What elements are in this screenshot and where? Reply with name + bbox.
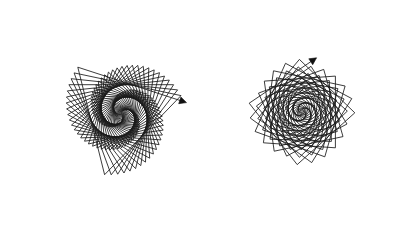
- turtle-cursor-icon: [179, 97, 187, 104]
- turtle-canvas: [0, 0, 401, 243]
- triangle-spiral: [66, 65, 186, 175]
- turtle-cursor-icon: [309, 58, 317, 65]
- triangle-spiral-trail: [66, 65, 184, 175]
- square-spiral: [249, 58, 355, 165]
- square-spiral-trail: [249, 59, 355, 164]
